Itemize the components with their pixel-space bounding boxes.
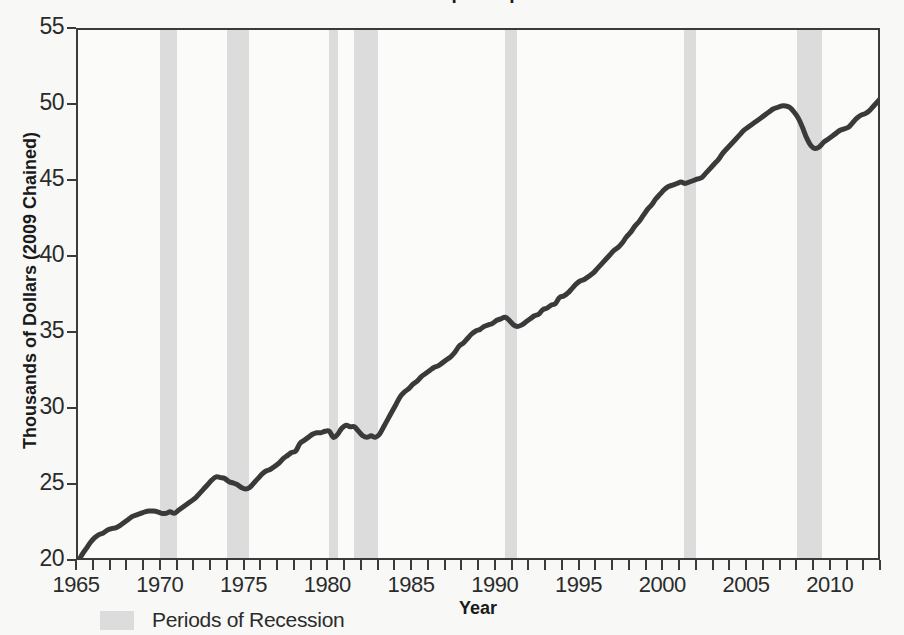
x-tick-mark bbox=[310, 560, 312, 570]
x-tick-mark bbox=[259, 560, 261, 570]
x-tick-mark bbox=[628, 560, 630, 570]
x-tick-mark bbox=[795, 560, 797, 570]
y-tick-label: 55 bbox=[0, 13, 64, 40]
x-tick-mark bbox=[159, 560, 161, 570]
y-tick-mark bbox=[67, 179, 76, 181]
x-tick-mark bbox=[661, 560, 663, 570]
x-tick-mark bbox=[75, 560, 77, 570]
x-tick-mark bbox=[695, 560, 697, 570]
x-tick-mark bbox=[511, 560, 513, 570]
chart-page: Real GDP per Capita Thousands of Dollars… bbox=[0, 0, 904, 635]
y-tick-mark bbox=[67, 27, 76, 29]
x-tick-mark bbox=[343, 560, 345, 570]
plot-area bbox=[76, 28, 880, 560]
x-tick-mark bbox=[377, 560, 379, 570]
x-tick-mark bbox=[393, 560, 395, 570]
y-tick-label: 25 bbox=[0, 469, 64, 496]
x-tick-mark bbox=[745, 560, 747, 570]
x-tick-mark bbox=[544, 560, 546, 570]
x-tick-mark bbox=[360, 560, 362, 570]
x-tick-mark bbox=[92, 560, 94, 570]
x-tick-mark bbox=[142, 560, 144, 570]
data-series-layer bbox=[78, 30, 880, 560]
x-tick-mark bbox=[109, 560, 111, 570]
x-tick-mark bbox=[762, 560, 764, 570]
x-tick-label: 1980 bbox=[282, 572, 372, 598]
x-tick-mark bbox=[410, 560, 412, 570]
x-tick-mark bbox=[293, 560, 295, 570]
legend-label-recession: Periods of Recession bbox=[152, 608, 344, 632]
x-tick-mark bbox=[326, 560, 328, 570]
x-tick-mark bbox=[125, 560, 127, 570]
x-tick-mark bbox=[226, 560, 228, 570]
y-tick-mark bbox=[67, 331, 76, 333]
x-tick-mark bbox=[728, 560, 730, 570]
x-tick-mark bbox=[477, 560, 479, 570]
x-tick-mark bbox=[678, 560, 680, 570]
y-tick-label: 50 bbox=[0, 89, 64, 116]
x-tick-label: 1985 bbox=[366, 572, 456, 598]
chart-title: Real GDP per Capita bbox=[0, 0, 904, 4]
x-tick-label: 2000 bbox=[617, 572, 707, 598]
x-tick-mark bbox=[561, 560, 563, 570]
gdp-per-capita-line bbox=[78, 97, 880, 560]
x-tick-mark bbox=[879, 560, 881, 570]
x-tick-mark bbox=[276, 560, 278, 570]
x-tick-mark bbox=[427, 560, 429, 570]
y-tick-label: 35 bbox=[0, 317, 64, 344]
y-tick-mark bbox=[67, 103, 76, 105]
x-tick-mark bbox=[578, 560, 580, 570]
x-tick-mark bbox=[192, 560, 194, 570]
y-tick-label: 30 bbox=[0, 393, 64, 420]
legend-swatch-recession bbox=[100, 611, 134, 630]
x-tick-label: 1990 bbox=[450, 572, 540, 598]
y-tick-mark bbox=[67, 407, 76, 409]
x-tick-mark bbox=[645, 560, 647, 570]
legend: Periods of Recession bbox=[100, 608, 344, 632]
x-tick-mark bbox=[611, 560, 613, 570]
y-tick-label: 20 bbox=[0, 545, 64, 572]
y-tick-label: 45 bbox=[0, 165, 64, 192]
x-tick-mark bbox=[829, 560, 831, 570]
x-tick-mark bbox=[444, 560, 446, 570]
x-tick-label: 1995 bbox=[534, 572, 624, 598]
x-tick-mark bbox=[494, 560, 496, 570]
x-tick-label: 2005 bbox=[701, 572, 791, 598]
x-tick-mark bbox=[712, 560, 714, 570]
x-tick-mark bbox=[812, 560, 814, 570]
x-tick-mark bbox=[846, 560, 848, 570]
x-tick-label: 1975 bbox=[199, 572, 289, 598]
x-tick-mark bbox=[862, 560, 864, 570]
x-tick-mark bbox=[527, 560, 529, 570]
x-tick-mark bbox=[176, 560, 178, 570]
y-tick-label: 40 bbox=[0, 241, 64, 268]
x-tick-mark bbox=[460, 560, 462, 570]
x-tick-label: 1970 bbox=[115, 572, 205, 598]
x-tick-label: 2010 bbox=[785, 572, 875, 598]
x-tick-label: 1965 bbox=[31, 572, 121, 598]
x-tick-mark bbox=[209, 560, 211, 570]
x-tick-mark bbox=[779, 560, 781, 570]
y-tick-mark bbox=[67, 483, 76, 485]
x-tick-mark bbox=[594, 560, 596, 570]
x-tick-mark bbox=[243, 560, 245, 570]
y-tick-mark bbox=[67, 255, 76, 257]
